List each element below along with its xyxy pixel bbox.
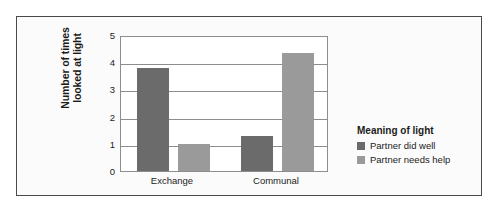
bar [241, 136, 273, 171]
y-axis-tick-label: 5 [110, 31, 115, 41]
x-axis-tick-label: Exchange [151, 175, 193, 187]
legend-label: Partner did well [370, 140, 435, 151]
y-axis-tick-label: 4 [110, 58, 115, 68]
legend-swatch-icon [357, 142, 365, 150]
y-axis-tick-label: 1 [110, 140, 115, 150]
bar [137, 68, 169, 171]
y-axis-title: Number of times looked at light [54, 8, 88, 128]
y-axis-tick-label: 3 [110, 85, 115, 95]
legend-entry: Partner did well [357, 140, 477, 151]
chart-legend: Meaning of light Partner did wellPartner… [357, 125, 477, 168]
bars-layer [121, 37, 327, 171]
y-axis-tick-label: 2 [110, 113, 115, 123]
y-axis-title-line-2: looked at light [71, 33, 84, 103]
y-axis-title-line-1: Number of times [59, 27, 72, 108]
legend-label: Partner needs help [370, 154, 450, 165]
bar [178, 144, 210, 171]
x-axis-tick-label: Communal [253, 175, 299, 187]
legend-swatch-icon [357, 156, 365, 164]
legend-entry: Partner needs help [357, 154, 477, 165]
plot-area [120, 36, 328, 172]
legend-entries: Partner did wellPartner needs help [357, 140, 477, 165]
bar [282, 53, 314, 171]
x-axis-tick-labels: ExchangeCommunal [120, 175, 328, 191]
legend-title: Meaning of light [357, 125, 477, 136]
chart-figure-frame: Number of times looked at light 012345 E… [16, 16, 482, 196]
y-axis-tick-label: 0 [110, 167, 115, 177]
y-axis-tick-labels: 012345 [101, 36, 115, 172]
